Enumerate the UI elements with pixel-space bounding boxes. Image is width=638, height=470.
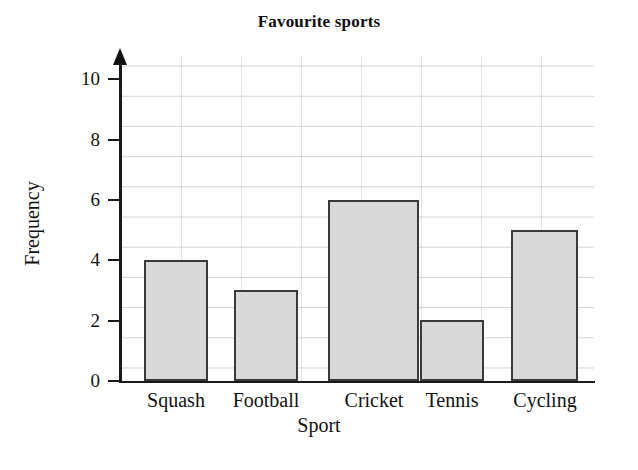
y-tick-label-2: 2	[54, 311, 100, 330]
y-tick-0	[108, 380, 122, 382]
y-tick-label-8: 8	[54, 130, 100, 149]
y-tick-label-10: 10	[54, 69, 100, 88]
bar-cycling	[511, 230, 578, 381]
y-tick-label-6: 6	[54, 190, 100, 209]
y-tick-8	[108, 139, 122, 141]
bar-cricket	[328, 200, 419, 381]
x-category-label-football: Football	[210, 388, 322, 412]
y-axis-title: Frequency	[21, 144, 44, 304]
y-axis-line	[119, 62, 122, 383]
y-tick-label-4: 4	[54, 250, 100, 269]
y-tick-2	[108, 320, 122, 322]
y-tick-10	[108, 78, 122, 80]
y-tick-4	[108, 259, 122, 261]
x-axis-title: Sport	[0, 414, 638, 437]
y-axis-arrow-icon	[113, 48, 127, 65]
y-tick-6	[108, 199, 122, 201]
bar-football	[234, 290, 298, 381]
bar-squash	[144, 260, 208, 381]
x-axis-line	[119, 381, 595, 383]
bar-tennis	[420, 320, 484, 381]
bar-chart: Favourite sports 0 2 4 6 8 10 Squash Foo…	[0, 0, 638, 470]
x-category-label-cycling: Cycling	[489, 388, 601, 412]
chart-title: Favourite sports	[0, 12, 638, 32]
y-tick-label-0: 0	[54, 371, 100, 390]
